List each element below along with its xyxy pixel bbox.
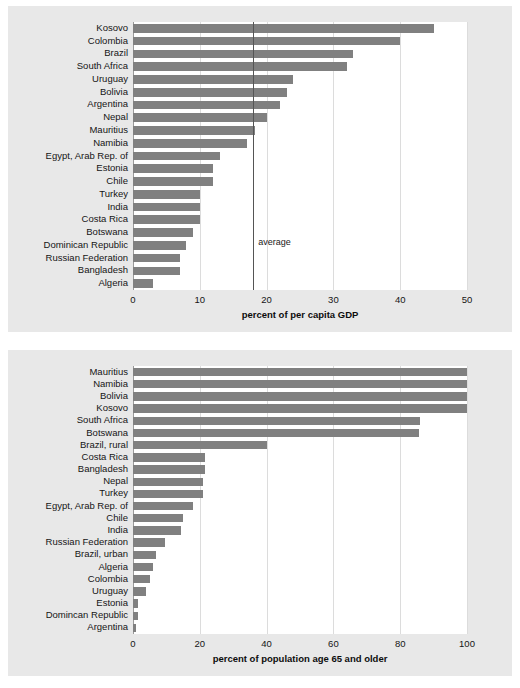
bar-row[interactable]	[133, 624, 467, 632]
bar[interactable]	[133, 441, 267, 449]
bar-row[interactable]	[133, 177, 467, 186]
figure-page: KosovoColombiaBrazilSouth AfricaUruguayB…	[0, 0, 520, 688]
chart-panel-top: KosovoColombiaBrazilSouth AfricaUruguayB…	[8, 6, 512, 332]
bar[interactable]	[133, 587, 146, 595]
x-axis-tick-label: 20	[261, 294, 272, 305]
bar[interactable]	[133, 404, 467, 412]
x-axis-tick-label: 10	[195, 294, 206, 305]
x-axis-tick-label: 40	[261, 638, 272, 649]
bar[interactable]	[133, 101, 280, 110]
y-axis-label: Uruguay	[92, 586, 128, 596]
bar-row[interactable]	[133, 279, 467, 288]
bar-row[interactable]	[133, 267, 467, 276]
bar[interactable]	[133, 177, 213, 186]
bar[interactable]	[133, 624, 136, 632]
bar[interactable]	[133, 368, 467, 376]
bar-row[interactable]	[133, 126, 467, 135]
bar[interactable]	[133, 37, 400, 46]
bar[interactable]	[133, 417, 420, 425]
y-axis-label: Chile	[106, 513, 128, 523]
bar[interactable]	[133, 551, 156, 559]
y-axis-label: South Africa	[77, 61, 128, 71]
bar[interactable]	[133, 139, 247, 148]
bar-row[interactable]	[133, 62, 467, 71]
bar-row[interactable]	[133, 612, 467, 620]
bar-row[interactable]	[133, 190, 467, 199]
bar[interactable]	[133, 538, 165, 546]
bar[interactable]	[133, 190, 200, 199]
x-axis-tick-label: 60	[328, 638, 339, 649]
bar[interactable]	[133, 490, 203, 498]
bar[interactable]	[133, 126, 255, 135]
bar[interactable]	[133, 228, 193, 237]
bar[interactable]	[133, 526, 181, 534]
bar-row[interactable]	[133, 139, 467, 148]
bar-row[interactable]	[133, 417, 467, 425]
bar[interactable]	[133, 152, 220, 161]
bar-row[interactable]	[133, 164, 467, 173]
bar[interactable]	[133, 113, 267, 122]
y-axis-label: Brazil	[104, 48, 128, 58]
bar-row[interactable]	[133, 368, 467, 376]
bar[interactable]	[133, 50, 353, 59]
bar-row[interactable]	[133, 37, 467, 46]
bar-row[interactable]	[133, 215, 467, 224]
gridline	[467, 366, 468, 634]
bar-row[interactable]	[133, 514, 467, 522]
bar-row[interactable]	[133, 526, 467, 534]
bar-row[interactable]	[133, 502, 467, 510]
bar-row[interactable]	[133, 101, 467, 110]
bar-row[interactable]	[133, 88, 467, 97]
bar-row[interactable]	[133, 551, 467, 559]
bar[interactable]	[133, 478, 203, 486]
bar[interactable]	[133, 215, 200, 224]
y-axis-label: Estonia	[96, 163, 128, 173]
bar-row[interactable]	[133, 24, 467, 33]
bar-row[interactable]	[133, 404, 467, 412]
bar-row[interactable]	[133, 441, 467, 449]
bar-row[interactable]	[133, 575, 467, 583]
bar-row[interactable]	[133, 453, 467, 461]
bar[interactable]	[133, 575, 150, 583]
bar[interactable]	[133, 62, 347, 71]
bar[interactable]	[133, 453, 205, 461]
bar[interactable]	[133, 514, 183, 522]
bar-row[interactable]	[133, 228, 467, 237]
bar-row[interactable]	[133, 587, 467, 595]
bar[interactable]	[133, 612, 138, 620]
bar[interactable]	[133, 24, 434, 33]
bar-row[interactable]	[133, 254, 467, 263]
bar[interactable]	[133, 254, 180, 263]
bar[interactable]	[133, 429, 419, 437]
bar-row[interactable]	[133, 599, 467, 607]
bar-row[interactable]	[133, 392, 467, 400]
bar-row[interactable]	[133, 490, 467, 498]
y-axis-label: Botswana	[86, 227, 128, 237]
bar[interactable]	[133, 75, 293, 84]
bar-row[interactable]	[133, 152, 467, 161]
bar-row[interactable]	[133, 113, 467, 122]
chart-bottom: MauritiusNamibiaBoliviaKosovoSouth Afric…	[8, 350, 512, 676]
bar-row[interactable]	[133, 203, 467, 212]
bar[interactable]	[133, 279, 153, 288]
bar[interactable]	[133, 599, 138, 607]
bar-row[interactable]	[133, 465, 467, 473]
bar[interactable]	[133, 380, 467, 388]
bar-row[interactable]	[133, 478, 467, 486]
bar[interactable]	[133, 164, 213, 173]
bar-row[interactable]	[133, 241, 467, 250]
bar-row[interactable]	[133, 75, 467, 84]
bar-row[interactable]	[133, 538, 467, 546]
bar[interactable]	[133, 88, 287, 97]
bar-row[interactable]	[133, 429, 467, 437]
bar-row[interactable]	[133, 50, 467, 59]
bar[interactable]	[133, 465, 205, 473]
bar[interactable]	[133, 502, 193, 510]
bar[interactable]	[133, 563, 153, 571]
bar-row[interactable]	[133, 563, 467, 571]
bar[interactable]	[133, 241, 186, 250]
bar[interactable]	[133, 392, 467, 400]
bar[interactable]	[133, 267, 180, 276]
bar[interactable]	[133, 203, 200, 212]
bar-row[interactable]	[133, 380, 467, 388]
